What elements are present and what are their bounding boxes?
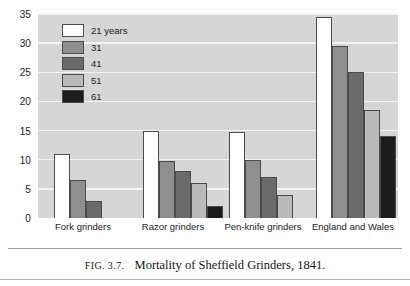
legend: 21 years31415161 <box>62 24 127 103</box>
plot-area: 21 years31415161 <box>38 14 398 218</box>
bar <box>348 72 364 218</box>
legend-label: 31 <box>91 42 102 53</box>
legend-swatch <box>62 24 84 37</box>
x-axis-category-labels: Fork grindersRazor grindersPen-knife gri… <box>38 221 398 232</box>
bar <box>54 154 70 218</box>
y-axis: 05101520253035 <box>0 14 36 218</box>
bar <box>159 161 175 218</box>
y-axis-tick-label: 20 <box>20 96 31 107</box>
legend-item: 51 <box>62 74 127 87</box>
bar-group <box>225 14 312 218</box>
bar <box>191 183 207 218</box>
bar <box>207 206 223 218</box>
y-axis-tick-label: 0 <box>25 213 31 224</box>
caption-title: Mortality of Sheffield Grinders, 1841. <box>135 258 326 272</box>
bar <box>316 17 332 218</box>
y-axis-tick-label: 10 <box>20 154 31 165</box>
bar <box>261 177 277 218</box>
legend-label: 51 <box>91 75 102 86</box>
bar-group <box>312 14 399 218</box>
legend-item: 41 <box>62 57 127 70</box>
y-axis-tick-label: 30 <box>20 38 31 49</box>
bar <box>245 160 261 218</box>
bar <box>332 46 348 218</box>
bar-group <box>137 14 226 218</box>
bar <box>70 180 86 218</box>
caption-figure-number: FIG. 3.7. <box>85 260 125 271</box>
y-axis-tick-label: 5 <box>25 183 31 194</box>
legend-item: 31 <box>62 41 127 54</box>
caption-divider <box>8 248 402 249</box>
legend-item: 61 <box>62 90 127 103</box>
bar <box>364 110 380 218</box>
y-axis-tick-label: 15 <box>20 125 31 136</box>
legend-label: 21 years <box>91 25 127 36</box>
figure-container: 05101520253035 21 years31415161 Fork gri… <box>0 0 410 286</box>
bar <box>143 131 159 218</box>
x-axis-tick-label: Fork grinders <box>38 221 128 232</box>
x-axis-tick-label: Pen-knife grinders <box>218 221 308 232</box>
legend-label: 41 <box>91 58 102 69</box>
legend-swatch <box>62 41 84 54</box>
bar <box>86 201 102 218</box>
legend-swatch <box>62 90 84 103</box>
y-axis-tick-label: 25 <box>20 67 31 78</box>
x-axis-tick-label: Razor grinders <box>128 221 218 232</box>
bar <box>380 136 396 218</box>
legend-swatch <box>62 57 84 70</box>
bar <box>277 195 293 218</box>
figure-caption: FIG. 3.7. Mortality of Sheffield Grinder… <box>0 258 410 273</box>
bar <box>229 132 245 218</box>
page-bottom-rule <box>0 279 410 280</box>
y-axis-tick-label: 35 <box>20 9 31 20</box>
x-axis-tick-label: England and Wales <box>308 221 398 232</box>
legend-label: 61 <box>91 91 102 102</box>
legend-item: 21 years <box>62 24 127 37</box>
bar <box>175 171 191 218</box>
legend-swatch <box>62 74 84 87</box>
